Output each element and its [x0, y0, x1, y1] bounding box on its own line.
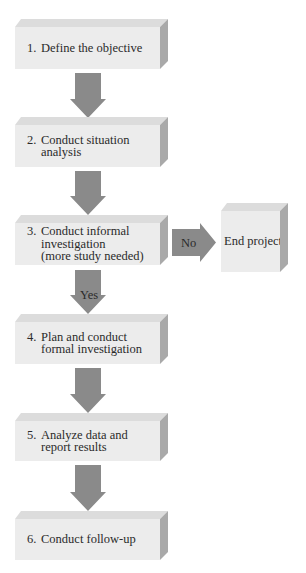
box-side-bevel: [160, 117, 168, 167]
step-text: Analyze data and report results: [41, 429, 128, 454]
step-6-box: 6. Conduct follow-up: [15, 511, 168, 560]
step-1-box: 1. Define the objective: [15, 19, 168, 69]
step-text: Plan and conduct formal investigation: [41, 331, 142, 356]
arrow-down-icon: [70, 73, 106, 118]
step-text: Define the objective: [41, 42, 142, 55]
step-number: 1.: [27, 42, 41, 55]
step-number: 6.: [27, 533, 41, 546]
no-label: No: [181, 236, 196, 251]
box-top-bevel: [15, 19, 168, 27]
step-5-box: 5. Analyze data and report results: [15, 413, 168, 461]
box-face: 1. Define the objective: [15, 27, 160, 69]
box-side-bevel: [280, 203, 288, 272]
arrow-down-icon: [70, 465, 106, 511]
box-top-bevel: [15, 511, 168, 519]
yes-label: Yes: [80, 288, 98, 303]
step-text: Conduct situation analysis: [41, 134, 130, 159]
box-top-bevel: [15, 413, 168, 421]
step-number: 2.: [27, 134, 41, 159]
box-side-bevel: [160, 215, 168, 265]
end-project-box: End project: [221, 203, 288, 272]
box-top-bevel: [15, 117, 168, 125]
step-number: 4.: [27, 331, 41, 356]
step-2-box: 2. Conduct situation analysis: [15, 117, 168, 167]
step-text: Conduct follow-up: [41, 533, 136, 546]
box-top-bevel: [15, 215, 168, 223]
step-4-box: 4. Plan and conduct formal investigation: [15, 314, 168, 364]
box-side-bevel: [160, 511, 168, 560]
arrow-down-icon: [70, 171, 106, 215]
step-number: 5.: [27, 429, 41, 454]
step-number: 3.: [27, 225, 41, 263]
box-face: 4. Plan and conduct formal investigation: [15, 322, 160, 364]
clipped-caption-line: [28, 566, 288, 573]
end-project-text: End project: [224, 235, 282, 248]
step-text: Conduct informal investigation (more stu…: [41, 225, 144, 263]
box-side-bevel: [160, 413, 168, 461]
step-3-box: 3. Conduct informal investigation (more …: [15, 215, 168, 265]
box-face: 6. Conduct follow-up: [15, 519, 160, 560]
box-side-bevel: [160, 19, 168, 69]
box-top-bevel: [15, 314, 168, 322]
box-side-bevel: [160, 314, 168, 364]
box-face: 2. Conduct situation analysis: [15, 125, 160, 167]
arrow-down-icon: [70, 368, 106, 413]
box-face: 3. Conduct informal investigation (more …: [15, 223, 160, 265]
box-top-bevel: [221, 203, 288, 211]
box-face: 5. Analyze data and report results: [15, 421, 160, 461]
box-face: End project: [221, 211, 280, 272]
